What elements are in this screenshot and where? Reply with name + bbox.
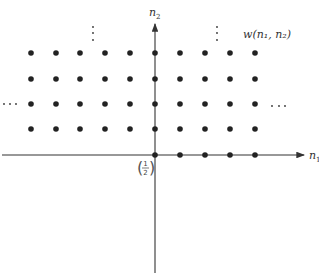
sample-dot bbox=[177, 101, 183, 107]
sample-dots bbox=[28, 50, 258, 158]
horizontal-ellipsis-left bbox=[3, 103, 17, 105]
sample-dot bbox=[152, 101, 158, 107]
region-label: w(n₁, n₂) bbox=[243, 28, 291, 41]
sample-dot bbox=[102, 126, 108, 132]
svg-text:): ) bbox=[149, 158, 155, 177]
vertical-ellipsis-left bbox=[92, 26, 94, 41]
sample-dot bbox=[127, 76, 133, 82]
sample-dot bbox=[53, 126, 59, 132]
sample-dot bbox=[53, 76, 59, 82]
sample-dot bbox=[227, 50, 233, 56]
sample-dot bbox=[202, 152, 208, 158]
sample-dot bbox=[202, 126, 208, 132]
n2-axis-label: n2 bbox=[149, 6, 161, 21]
sample-dot bbox=[152, 76, 158, 82]
sample-dot bbox=[202, 101, 208, 107]
sample-dot bbox=[127, 50, 133, 56]
sample-dot bbox=[28, 76, 34, 82]
sample-dot bbox=[152, 50, 158, 56]
sample-dot bbox=[202, 76, 208, 82]
sample-dot bbox=[127, 126, 133, 132]
sample-dot bbox=[102, 101, 108, 107]
sample-dot bbox=[252, 101, 258, 107]
sample-dot bbox=[177, 126, 183, 132]
sample-dot bbox=[28, 50, 34, 56]
sample-dot bbox=[53, 50, 59, 56]
sample-dot bbox=[177, 76, 183, 82]
sample-dot bbox=[152, 126, 158, 132]
sample-dot bbox=[102, 50, 108, 56]
sample-dot bbox=[77, 126, 83, 132]
sample-dot bbox=[177, 152, 183, 158]
sample-dot bbox=[227, 126, 233, 132]
region-of-support-diagram: n1 n2 w(n₁, n₂) ( ) 1 2 bbox=[0, 0, 319, 273]
sample-dot bbox=[77, 76, 83, 82]
sample-dot bbox=[53, 101, 59, 107]
sample-dot bbox=[102, 76, 108, 82]
sample-dot bbox=[28, 101, 34, 107]
svg-text:1: 1 bbox=[143, 160, 147, 168]
sample-dot bbox=[77, 101, 83, 107]
sample-dot bbox=[152, 152, 158, 158]
sample-dot bbox=[227, 76, 233, 82]
sample-dot bbox=[252, 76, 258, 82]
sample-dot bbox=[177, 50, 183, 56]
horizontal-ellipsis-right bbox=[271, 105, 286, 107]
origin-weight-label: ( ) 1 2 bbox=[137, 158, 155, 177]
sample-dot bbox=[227, 152, 233, 158]
sample-dot bbox=[252, 152, 258, 158]
sample-dot bbox=[127, 101, 133, 107]
sample-dot bbox=[227, 101, 233, 107]
sample-dot bbox=[77, 50, 83, 56]
n1-axis-label: n1 bbox=[309, 149, 319, 164]
sample-dot bbox=[28, 126, 34, 132]
sample-dot bbox=[252, 126, 258, 132]
svg-text:2: 2 bbox=[143, 169, 147, 177]
sample-dot bbox=[202, 50, 208, 56]
vertical-ellipsis-right bbox=[216, 26, 218, 41]
sample-dot bbox=[252, 50, 258, 56]
